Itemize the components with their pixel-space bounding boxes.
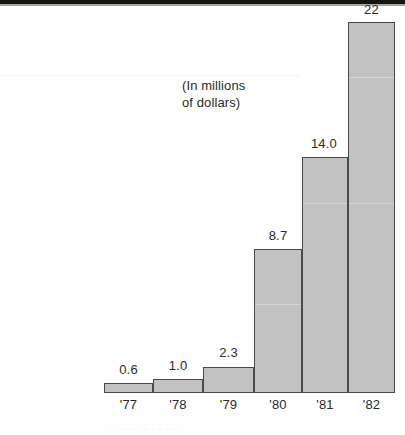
x-tick-label-78: '78 <box>153 397 203 412</box>
bar-seam <box>349 203 394 204</box>
bar-seam <box>349 77 394 78</box>
bar-seam <box>255 304 301 305</box>
value-label-80: 8.7 <box>254 228 302 243</box>
x-tick-label-80: '80 <box>254 397 302 412</box>
bar-79 <box>203 367 254 393</box>
bar-chart-plot-area: 0.6 1.0 2.3 8.7 14.0 22 '77 '78 '79 '80 … <box>0 0 405 435</box>
value-label-77: 0.6 <box>104 362 153 377</box>
x-tick-label-79: '79 <box>203 397 254 412</box>
bar-80 <box>254 249 302 393</box>
chart-page: 0.6 1.0 2.3 8.7 14.0 22 '77 '78 '79 '80 … <box>0 0 405 435</box>
value-label-79: 2.3 <box>203 345 254 360</box>
units-annotation: (In millions of dollars) <box>182 77 245 111</box>
bar-82 <box>348 22 395 393</box>
value-label-82: 22 <box>348 2 395 17</box>
value-label-78: 1.0 <box>153 358 203 373</box>
x-axis-line <box>104 392 395 393</box>
cropped-caption-remnant: · · · · · · ·· · ·· ·· · · <box>110 424 350 433</box>
value-label-81: 14.0 <box>300 136 348 151</box>
bar-seam <box>303 203 347 204</box>
bar-78 <box>153 379 203 393</box>
x-tick-label-77: '77 <box>104 397 153 412</box>
x-tick-label-81: '81 <box>302 397 348 412</box>
bar-81 <box>302 157 348 393</box>
x-tick-label-82: '82 <box>348 397 395 412</box>
